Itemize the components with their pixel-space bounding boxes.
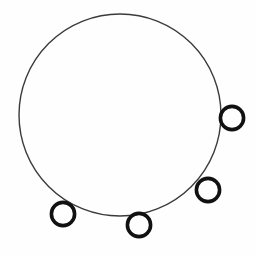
figure-canvas [0,0,256,256]
diagram-svg [0,0,256,256]
